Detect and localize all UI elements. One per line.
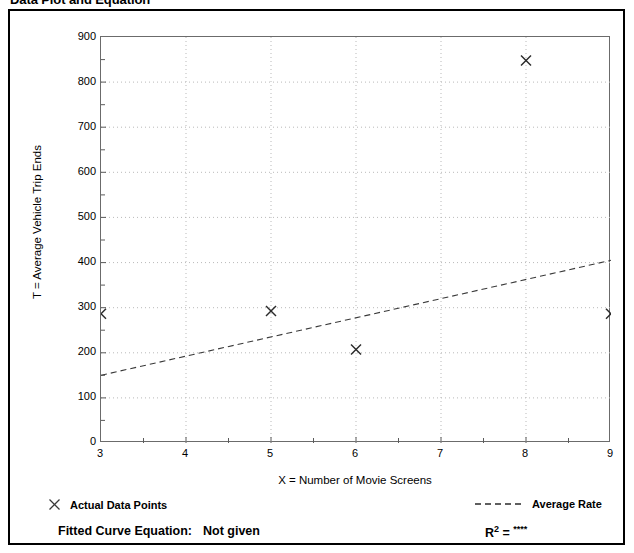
y-tick-label: 200 <box>60 346 96 357</box>
x-tick-label: 3 <box>85 448 115 459</box>
plot-area <box>100 36 610 442</box>
y-axis-minor-ticks <box>101 60 105 421</box>
y-tick-label: 500 <box>60 211 96 222</box>
y-tick-label: 400 <box>60 256 96 267</box>
page-title: Data Plot and Equation <box>10 0 150 7</box>
legend-item-average-rate: Average Rate <box>475 498 602 510</box>
x-tick-label: 8 <box>510 448 540 459</box>
x-tick-label: 7 <box>425 448 455 459</box>
r-squared-value: **** <box>513 524 527 534</box>
y-tick-label: 0 <box>60 436 96 447</box>
data-point-marker <box>266 306 276 316</box>
y-tick-label: 600 <box>60 166 96 177</box>
chart-footer: Fitted Curve Equation: Not given R2 = **… <box>10 524 623 545</box>
x-tick-label: 9 <box>595 448 625 459</box>
plot-canvas <box>101 37 611 443</box>
y-axis-title: T = Average Vehicle Trip Ends <box>31 122 43 322</box>
legend-label-actual-data-points: Actual Data Points <box>70 499 167 511</box>
x-tick-label: 4 <box>170 448 200 459</box>
data-point-marker <box>606 309 611 319</box>
fitted-curve-equation-value: Not given <box>203 524 260 538</box>
r-squared-equals: = <box>499 526 513 540</box>
x-axis-title: X = Number of Movie Screens <box>100 474 610 486</box>
x-cross-marker-icon <box>48 498 61 511</box>
fitted-curve-equation: Fitted Curve Equation: Not given <box>58 524 260 538</box>
fitted-curve-equation-label: Fitted Curve Equation: <box>58 524 192 538</box>
x-tick-label: 5 <box>255 448 285 459</box>
vertical-gridlines <box>186 37 526 443</box>
r-squared-statistic: R2 = **** <box>485 524 527 540</box>
dashed-line-icon <box>475 503 523 505</box>
y-axis-tick-labels: 0 100 200 300 400 500 600 700 800 900 <box>52 36 96 442</box>
legend-label-average-rate: Average Rate <box>532 498 602 510</box>
data-point-marker <box>101 309 106 319</box>
figure-frame: 0 100 200 300 400 500 600 700 800 900 T … <box>8 9 625 545</box>
x-axis-tick-labels: 3 4 5 6 7 8 9 <box>100 448 610 464</box>
y-tick-label: 300 <box>60 301 96 312</box>
x-axis-major-ticks <box>186 437 526 443</box>
y-tick-label: 100 <box>60 391 96 402</box>
chart-legend: Actual Data Points Average Rate <box>10 498 623 524</box>
y-tick-label: 700 <box>60 121 96 132</box>
y-tick-label: 900 <box>60 31 96 42</box>
legend-item-actual-data-points: Actual Data Points <box>48 498 167 511</box>
r-squared-label: R <box>485 526 494 540</box>
y-tick-label: 800 <box>60 76 96 87</box>
x-tick-label: 6 <box>340 448 370 459</box>
